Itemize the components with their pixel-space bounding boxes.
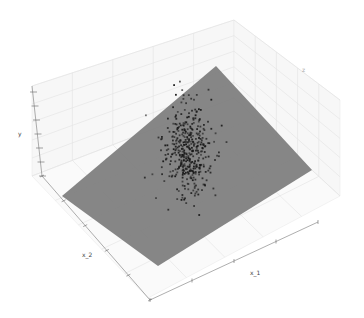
scatter-point bbox=[192, 174, 194, 176]
scatter-point bbox=[184, 109, 186, 111]
scatter-point bbox=[175, 169, 177, 171]
scatter-point bbox=[175, 174, 177, 176]
scatter-point bbox=[193, 205, 195, 207]
scatter-point bbox=[192, 170, 194, 172]
scatter-point bbox=[195, 114, 197, 116]
scatter-point bbox=[213, 188, 215, 190]
scatter-point bbox=[210, 99, 212, 101]
scatter-point bbox=[175, 118, 177, 120]
scatter-point bbox=[193, 163, 195, 165]
scatter-point bbox=[185, 168, 187, 170]
scatter-point bbox=[161, 173, 163, 175]
scatter-point bbox=[155, 197, 157, 199]
scatter-point bbox=[176, 143, 178, 145]
scatter-point bbox=[183, 94, 185, 96]
scatter-point bbox=[174, 152, 176, 154]
scatter-point bbox=[197, 160, 199, 162]
scatter-point bbox=[180, 113, 182, 115]
scatter-point bbox=[190, 143, 192, 145]
scatter-point bbox=[187, 123, 189, 125]
scatter-point bbox=[204, 151, 206, 153]
scatter-point bbox=[216, 155, 218, 157]
scatter-point bbox=[187, 142, 189, 144]
scatter-point bbox=[152, 173, 154, 175]
scatter-point bbox=[193, 99, 195, 101]
scatter-point bbox=[189, 166, 191, 168]
scatter-point bbox=[202, 147, 204, 149]
scatter-point bbox=[176, 139, 178, 141]
scatter-point bbox=[187, 128, 189, 130]
scatter-point bbox=[160, 138, 162, 140]
scatter-point bbox=[201, 189, 203, 191]
scatter-point bbox=[160, 149, 162, 151]
scatter-point bbox=[179, 123, 181, 125]
scatter-point bbox=[181, 134, 183, 136]
scatter-point bbox=[189, 164, 191, 166]
scatter-point bbox=[191, 123, 193, 125]
scatter-point bbox=[188, 116, 190, 118]
scatter-point bbox=[199, 168, 201, 170]
scatter-point bbox=[170, 156, 172, 158]
scatter-point bbox=[173, 143, 175, 145]
scatter-point bbox=[210, 165, 212, 167]
scatter-point bbox=[200, 109, 202, 111]
scatter-point bbox=[199, 131, 201, 133]
scatter-point bbox=[164, 145, 166, 147]
scatter-point bbox=[199, 119, 201, 121]
scatter-point bbox=[181, 199, 183, 201]
scatter-point bbox=[185, 102, 187, 104]
scatter-point bbox=[183, 98, 185, 100]
scatter-point bbox=[179, 150, 181, 152]
scatter-point bbox=[218, 152, 220, 154]
scatter-point bbox=[208, 89, 210, 91]
scatter-point bbox=[188, 146, 190, 148]
scatter-point bbox=[181, 129, 183, 131]
scatter-point bbox=[144, 177, 146, 179]
scatter-point bbox=[196, 153, 198, 155]
scatter-point bbox=[208, 156, 210, 158]
scatter-point bbox=[172, 135, 174, 137]
scatter-point bbox=[175, 94, 177, 96]
scatter-point bbox=[202, 158, 204, 160]
scatter-point bbox=[200, 126, 202, 128]
scatter-point bbox=[205, 171, 207, 173]
scatter-point bbox=[197, 125, 199, 127]
scatter-point bbox=[169, 131, 171, 133]
scatter-point bbox=[195, 117, 197, 119]
scatter-point bbox=[198, 121, 200, 123]
scatter-point bbox=[182, 169, 184, 171]
scatter-point bbox=[185, 139, 187, 141]
scatter-point bbox=[194, 195, 196, 197]
scatter-point bbox=[187, 155, 189, 157]
scatter-point bbox=[189, 133, 191, 135]
scatter-point bbox=[193, 166, 195, 168]
scatter-point bbox=[183, 159, 185, 161]
scatter-point bbox=[213, 141, 215, 143]
scatter-point bbox=[198, 174, 200, 176]
scatter-point bbox=[204, 145, 206, 147]
scatter-point bbox=[180, 140, 182, 142]
scatter-point bbox=[206, 179, 208, 181]
scatter-point bbox=[190, 192, 192, 194]
scatter-point bbox=[184, 188, 186, 190]
scatter-point bbox=[174, 123, 176, 125]
scatter-point bbox=[173, 148, 175, 150]
scatter-point bbox=[181, 102, 183, 104]
scatter-point bbox=[192, 129, 194, 131]
scatter-point bbox=[175, 148, 177, 150]
scatter-point bbox=[203, 124, 205, 126]
scatter-point bbox=[215, 194, 217, 196]
scatter-point bbox=[181, 161, 183, 163]
scatter-point bbox=[191, 153, 193, 155]
scatter-point bbox=[176, 188, 178, 190]
scatter-point bbox=[176, 172, 178, 174]
scatter-point bbox=[180, 163, 182, 165]
scatter-point bbox=[202, 137, 204, 139]
y-axis-label: y bbox=[18, 130, 22, 137]
scatter-point bbox=[207, 121, 209, 123]
scatter-point bbox=[196, 191, 198, 193]
scatter-point bbox=[178, 166, 180, 168]
scatter-point bbox=[173, 84, 175, 86]
scatter-point bbox=[188, 112, 190, 114]
scatter-point bbox=[221, 125, 223, 127]
